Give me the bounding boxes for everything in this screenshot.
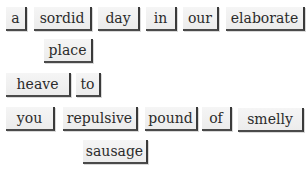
magnet-poetry-board: a sordid day in our elaborate place heav… (0, 0, 308, 176)
word-tile-to[interactable]: to (76, 73, 101, 97)
word-tile-you[interactable]: you (6, 107, 55, 131)
word-tile-smelly[interactable]: smelly (238, 108, 304, 132)
word-tile-place[interactable]: place (44, 39, 93, 63)
word-tile-repulsive[interactable]: repulsive (63, 107, 138, 131)
word-tile-sordid[interactable]: sordid (34, 7, 92, 31)
word-tile-pound[interactable]: pound (145, 107, 198, 131)
word-tile-in[interactable]: in (146, 7, 177, 31)
word-tile-sausage[interactable]: sausage (83, 140, 148, 164)
word-tile-elaborate[interactable]: elaborate (226, 7, 305, 31)
word-tile-of[interactable]: of (202, 107, 232, 131)
word-tile-our[interactable]: our (183, 7, 219, 31)
word-tile-a[interactable]: a (6, 7, 27, 31)
word-tile-heave[interactable]: heave (6, 73, 71, 97)
word-tile-day[interactable]: day (98, 7, 140, 31)
